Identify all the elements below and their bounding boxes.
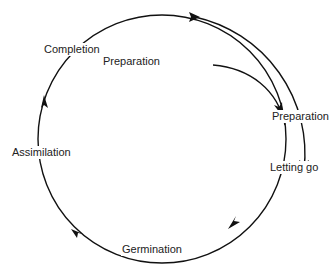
- label-assimilation: Assimilation: [11, 146, 72, 159]
- label-letting-go: Letting go: [269, 161, 319, 174]
- cycle-diagram: [0, 0, 333, 271]
- arrow-icon-left: [41, 95, 48, 108]
- arrow-icon-lower-left: [71, 229, 83, 238]
- label-germination: Germination: [121, 243, 183, 256]
- arrow-icon-lower-right: [228, 216, 240, 229]
- label-preparation-inner: Preparation: [102, 55, 161, 68]
- label-preparation-outer: Preparation: [271, 110, 330, 123]
- outer-arc: [195, 17, 305, 170]
- label-completion: Completion: [43, 43, 101, 56]
